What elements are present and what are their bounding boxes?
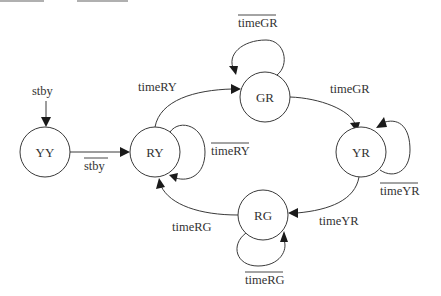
edge-ry-gr	[155, 89, 232, 127]
edge-rg-ry	[161, 186, 238, 215]
initial-arrowhead-icon	[41, 117, 51, 127]
edge-label: timeGR	[330, 82, 370, 96]
arrowhead-icon	[229, 66, 238, 75]
arrowhead-icon	[376, 117, 387, 128]
edge-label: stby	[84, 159, 106, 173]
edge-label: timeRG	[172, 220, 212, 234]
transition-rg-ry: timeRG	[156, 178, 238, 234]
state-label: YY	[36, 145, 55, 160]
transition-yy-ry: stby	[70, 147, 130, 173]
state-rg: RG	[238, 190, 288, 240]
initial-transition: stby	[32, 84, 54, 127]
edge-label: timeRY	[211, 144, 250, 158]
self-loop-gr	[232, 40, 284, 75]
edge-label: timeRG	[245, 273, 285, 287]
edge-gr-yr	[290, 97, 355, 124]
edge-label: timeGR	[238, 16, 278, 30]
edge-yr-rg	[297, 177, 359, 213]
state-ry: RY	[130, 127, 180, 177]
edge-label: timeYR	[319, 214, 359, 228]
transition-ry-gr: timeRY	[138, 80, 241, 127]
transition-yr-rg: timeYR	[288, 177, 359, 228]
edge-label: timeRY	[138, 80, 177, 94]
arrowhead-icon	[231, 84, 241, 94]
state-yy: YY	[20, 127, 70, 177]
transition-ry-self: timeRY	[169, 125, 250, 182]
state-label: RY	[146, 145, 164, 160]
arrowhead-icon	[288, 208, 298, 218]
state-label: RG	[254, 208, 272, 223]
transition-gr-self: timeGR	[229, 15, 284, 75]
edge-label: timeYR	[380, 184, 420, 198]
state-diagram: stby stby timeRY timeRY timeGR timeGR	[0, 0, 441, 296]
arrowhead-icon	[169, 173, 178, 182]
arrowhead-icon	[156, 178, 165, 189]
initial-label: stby	[32, 84, 54, 98]
state-gr: GR	[240, 72, 290, 122]
transition-gr-yr: timeGR	[290, 82, 370, 132]
state-label: GR	[256, 90, 274, 105]
state-label: YR	[352, 145, 370, 160]
state-yr: YR	[336, 127, 386, 177]
arrowhead-icon	[120, 147, 130, 157]
